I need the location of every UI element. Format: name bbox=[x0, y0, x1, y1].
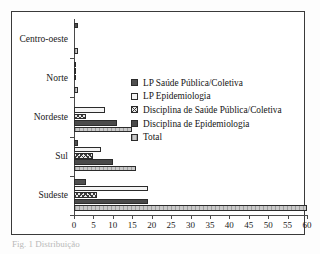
bar bbox=[74, 68, 76, 74]
bar bbox=[74, 87, 78, 93]
bar bbox=[74, 166, 136, 172]
bar bbox=[74, 153, 93, 159]
x-tick bbox=[132, 215, 133, 219]
x-tick bbox=[307, 215, 308, 219]
legend-item: LP Epidemiologia bbox=[131, 90, 282, 104]
bar bbox=[74, 179, 86, 185]
bar bbox=[74, 147, 101, 153]
chart-page: 051015202530354045505560 Centro-oesteNor… bbox=[0, 0, 320, 254]
x-tick-label: 25 bbox=[167, 220, 176, 230]
y-axis-label: Norte bbox=[0, 73, 68, 83]
legend-item: Disciplina de Saúde Pública/Coletiva bbox=[131, 103, 282, 117]
x-tick-label: 50 bbox=[264, 220, 273, 230]
chart-legend: LP Saúde Pública/ColetivaLP Epidemiologi… bbox=[131, 76, 282, 144]
legend-item: Total bbox=[131, 130, 282, 144]
legend-item: LP Saúde Pública/Coletiva bbox=[131, 76, 282, 90]
y-axis-label: Nordeste bbox=[0, 112, 68, 122]
x-tick-label: 5 bbox=[91, 220, 96, 230]
x-tick-label: 10 bbox=[108, 220, 117, 230]
legend-label: Total bbox=[143, 132, 162, 142]
bar bbox=[74, 186, 148, 192]
x-tick-label: 35 bbox=[205, 220, 214, 230]
x-tick bbox=[152, 215, 153, 219]
x-tick-label: 60 bbox=[303, 220, 312, 230]
x-tick-label: 0 bbox=[72, 220, 77, 230]
x-tick-label: 55 bbox=[283, 220, 292, 230]
x-tick bbox=[229, 215, 230, 219]
x-tick bbox=[171, 215, 172, 219]
bar bbox=[74, 75, 76, 81]
legend-label: Disciplina de Saúde Pública/Coletiva bbox=[143, 105, 282, 115]
bar bbox=[74, 192, 97, 198]
bar bbox=[74, 23, 78, 29]
y-tick bbox=[70, 215, 74, 216]
bar bbox=[74, 48, 78, 54]
bar bbox=[74, 120, 117, 126]
bar bbox=[74, 127, 132, 133]
legend-swatch-icon bbox=[131, 79, 138, 86]
x-tick bbox=[113, 215, 114, 219]
legend-swatch-icon bbox=[131, 120, 138, 127]
legend-swatch-icon bbox=[131, 106, 138, 113]
legend-item: Disciplina de Epidemiologia bbox=[131, 117, 282, 131]
x-tick-label: 20 bbox=[147, 220, 156, 230]
bar bbox=[74, 107, 105, 113]
x-tick bbox=[288, 215, 289, 219]
bar bbox=[74, 114, 86, 120]
x-tick bbox=[93, 215, 94, 219]
legend-label: Disciplina de Epidemiologia bbox=[143, 119, 249, 129]
x-tick-label: 30 bbox=[186, 220, 195, 230]
y-axis-label: Sudeste bbox=[0, 190, 68, 200]
legend-label: LP Epidemiologia bbox=[143, 91, 211, 101]
bar bbox=[74, 159, 113, 165]
bar bbox=[74, 205, 307, 211]
x-tick bbox=[191, 215, 192, 219]
x-tick bbox=[74, 215, 75, 219]
y-axis-label: Centro-oeste bbox=[0, 34, 68, 44]
y-axis-label: Sul bbox=[0, 151, 68, 161]
x-tick-label: 15 bbox=[128, 220, 137, 230]
x-tick bbox=[249, 215, 250, 219]
legend-swatch-icon bbox=[131, 134, 138, 141]
x-tick-label: 40 bbox=[225, 220, 234, 230]
x-tick bbox=[268, 215, 269, 219]
legend-swatch-icon bbox=[131, 93, 138, 100]
bar bbox=[74, 62, 76, 68]
bar bbox=[74, 199, 148, 205]
figure-caption: Fig. 1 Distribuição bbox=[12, 239, 312, 252]
legend-label: LP Saúde Pública/Coletiva bbox=[143, 78, 243, 88]
x-tick-label: 45 bbox=[244, 220, 253, 230]
bar bbox=[74, 140, 78, 146]
x-tick bbox=[210, 215, 211, 219]
